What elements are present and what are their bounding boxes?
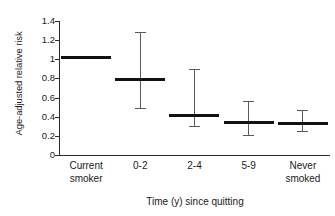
error-bar-cap-upper	[135, 32, 146, 33]
x-axis-category-label: 2-4	[167, 160, 221, 173]
x-axis-category-label: Never smoked	[276, 160, 330, 185]
y-axis-title: Age-adjusted relative risk	[13, 9, 24, 159]
y-axis-tick-label: 0.2	[31, 131, 55, 141]
value-marker	[278, 122, 328, 125]
value-marker	[169, 114, 219, 117]
x-axis-title: Time (y) since quitting	[59, 196, 331, 207]
y-axis-tick-label: 0.6	[31, 93, 55, 103]
error-bar-line	[140, 32, 141, 108]
error-bar-cap-lower	[243, 135, 254, 136]
x-axis-category-labels: Current smoker0-22-45-9Never smoked	[59, 160, 330, 190]
y-axis-tick-label: 1.4	[31, 16, 55, 26]
plot-area	[59, 21, 330, 155]
data-point-group	[222, 21, 276, 156]
value-marker	[115, 78, 165, 81]
error-bar-cap-upper	[243, 101, 254, 102]
value-marker	[224, 121, 274, 124]
error-bar-line	[302, 110, 303, 131]
y-axis-tick-labels: 00.20.40.60.811.21.4	[31, 21, 55, 156]
error-bar-cap-lower	[297, 131, 308, 132]
error-bar-line	[194, 69, 195, 126]
y-axis-tick-label: 0.4	[31, 112, 55, 122]
y-axis-tick-label: 0	[31, 150, 55, 160]
y-axis-tick-label: 1	[31, 54, 55, 64]
y-axis-tick-label: 1.2	[31, 35, 55, 45]
y-axis-tick-label: 0.8	[31, 73, 55, 83]
data-point-group	[167, 21, 221, 156]
error-bar-cap-lower	[189, 126, 200, 127]
data-point-group	[113, 21, 167, 156]
x-axis-category-label: 5-9	[222, 160, 276, 173]
chart-figure: Age-adjusted relative risk 00.20.40.60.8…	[0, 0, 335, 216]
value-marker	[61, 56, 111, 59]
data-point-group	[59, 21, 113, 156]
error-bar-line	[248, 101, 249, 135]
x-axis-category-label: 0-2	[113, 160, 167, 173]
error-bar-cap-upper	[189, 69, 200, 70]
data-point-group	[276, 21, 330, 156]
x-axis-category-label: Current smoker	[59, 160, 113, 185]
error-bar-cap-lower	[135, 108, 146, 109]
error-bar-cap-upper	[297, 110, 308, 111]
